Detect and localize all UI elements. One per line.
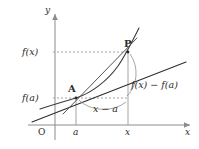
point-label-p: P <box>124 39 132 49</box>
y-axis-label: y <box>45 6 50 15</box>
annotation-run-x-minus-a: x − a <box>93 104 118 114</box>
x-axis-label: x <box>185 128 190 137</box>
origin-label: O <box>38 128 45 137</box>
x-tick-label-a: a <box>73 128 78 137</box>
calculus-difference-quotient-figure: y x O a x f(x) f(a) A P x − a f(x) − f(a… <box>0 0 199 149</box>
y-tick-label-fx: f(x) <box>22 47 38 57</box>
x-tick-label-x: x <box>125 128 130 137</box>
point-marker-a <box>75 97 78 100</box>
annotation-rise-fx-minus-fa: f(x) − f(a) <box>131 80 178 90</box>
figure-canvas <box>0 0 199 149</box>
y-axis-arrowhead <box>52 14 58 20</box>
y-tick-label-fa: f(a) <box>22 93 39 103</box>
point-markers-group <box>75 51 130 100</box>
point-label-a: A <box>68 84 76 94</box>
measure-arcs-group <box>79 54 136 109</box>
point-marker-p <box>127 51 130 54</box>
